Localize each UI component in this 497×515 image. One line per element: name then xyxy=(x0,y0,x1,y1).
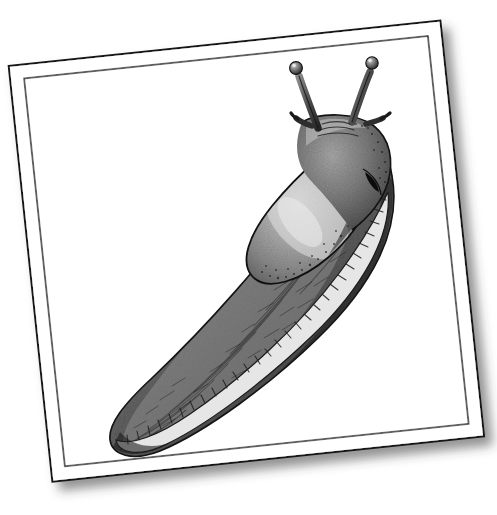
eye-tentacle-right-bulb xyxy=(366,57,378,69)
eye-tentacle-left-bulb xyxy=(290,62,303,75)
illustration-card xyxy=(9,21,484,482)
framed-slug-illustration xyxy=(0,0,497,515)
eye-tentacle-right-glint xyxy=(368,59,371,62)
eye-tentacle-left-glint xyxy=(292,64,296,68)
card-paper xyxy=(9,21,484,482)
illustration-stage: Slug xyxy=(0,0,497,515)
